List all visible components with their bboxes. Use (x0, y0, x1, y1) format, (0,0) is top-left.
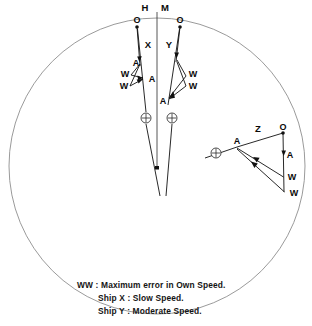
ship-z-own-speed-arrowhead (281, 150, 286, 156)
ship-z-own-speed-line (283, 133, 284, 192)
ship-x-label-O: O (133, 15, 140, 25)
heading-marker-label: H (142, 2, 149, 13)
ship-y-label-W1: W (189, 69, 198, 79)
ship-z-label: Z (255, 123, 261, 134)
ship-z-w2-vector (237, 149, 285, 192)
ship-y-position-symbol (167, 113, 177, 123)
ship-x-label-W1: W (121, 69, 130, 79)
ship-z-w1-vector (237, 148, 284, 177)
legend-line-1: WW : Maximum error in Own Speed. (77, 280, 226, 290)
ship-x-position-symbol (141, 113, 151, 123)
legend-line-3: Ship Y : Moderate Speed. (98, 306, 202, 316)
ship-z-label-W1: W (288, 172, 297, 182)
ship-x-label-A1: A (133, 58, 140, 68)
ship-x-w2-arrowhead (137, 79, 143, 84)
heading-line-end-dot (155, 166, 159, 170)
ship-y-vector-diagram: O Y W W A (160, 15, 198, 196)
ship-z-vector-diagram: Z O A A W W (205, 122, 299, 198)
ship-x-vector-diagram: O X A A W W (120, 15, 160, 196)
ship-y-label-W2: W (189, 81, 198, 91)
ship-x-track-extension (146, 124, 160, 196)
ship-x-label-W2: W (120, 81, 129, 91)
ship-x-label: X (145, 39, 152, 50)
ship-y-label-O: O (176, 15, 183, 25)
ship-z-label-A1: A (234, 136, 241, 146)
legend-line-2: Ship X : Slow Speed. (98, 293, 184, 303)
ship-y-track-extension (166, 124, 172, 196)
ship-x-label-A2: A (149, 74, 156, 84)
ship-z-ao-vector (237, 133, 283, 147)
ship-z-label-W2: W (290, 188, 299, 198)
mean-marker-label: M (161, 2, 169, 13)
ship-z-label-A2: A (287, 150, 294, 160)
ship-z-position-symbol (211, 148, 221, 158)
ship-y-label-A: A (160, 96, 167, 106)
plot-canvas: H M (0, 0, 312, 326)
ship-z-label-O: O (279, 122, 286, 132)
heading-reference-line-group: H M (142, 2, 169, 170)
legend-block: WW : Maximum error in Own Speed. Ship X … (77, 280, 226, 316)
ship-y-label: Y (166, 39, 173, 50)
relative-motion-plot: H M (0, 0, 312, 326)
